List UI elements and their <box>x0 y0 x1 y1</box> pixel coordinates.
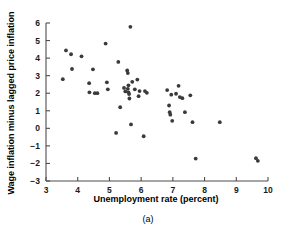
y-tick-label: 0 <box>35 123 40 133</box>
data-point <box>122 86 126 90</box>
data-point <box>183 110 187 114</box>
data-point <box>126 71 130 75</box>
data-point <box>133 87 137 91</box>
data-point <box>137 94 141 98</box>
data-point <box>180 96 184 100</box>
axes <box>46 23 268 181</box>
data-point <box>70 67 74 71</box>
data-points <box>61 25 260 163</box>
axis-tick-labels: −3−2−10123456345678910 <box>30 18 273 195</box>
x-axis-label: Unemployment rate (percent) <box>93 194 218 204</box>
x-tick-label: 4 <box>75 185 80 195</box>
data-point <box>177 84 181 88</box>
y-axis-label: Wage inflation minus lagged price inflat… <box>6 11 16 194</box>
y-tick-label: −3 <box>30 176 40 186</box>
data-point <box>118 105 122 109</box>
data-point <box>174 92 178 96</box>
data-point <box>135 78 139 82</box>
y-tick-label: 3 <box>35 71 40 81</box>
y-tick-label: 5 <box>35 36 40 46</box>
data-point <box>191 120 195 124</box>
data-point <box>95 91 99 95</box>
data-point <box>106 87 110 91</box>
data-point <box>142 134 146 138</box>
x-tick-label: 10 <box>263 185 273 195</box>
data-point <box>169 93 173 97</box>
data-point <box>126 87 130 91</box>
scatter-plot: −3−2−10123456345678910 Unemployment rate… <box>0 0 292 227</box>
data-point <box>128 97 132 101</box>
data-point <box>61 77 65 81</box>
y-tick-label: −2 <box>30 158 40 168</box>
x-tick-label: 3 <box>44 185 49 195</box>
data-point <box>69 52 73 56</box>
data-point <box>165 88 169 92</box>
axis-ticks <box>46 23 268 181</box>
data-point <box>64 48 68 52</box>
data-point <box>88 90 92 94</box>
y-tick-label: 6 <box>35 18 40 28</box>
data-point <box>116 60 120 64</box>
panel-label: (a) <box>143 214 154 224</box>
data-point <box>167 104 171 108</box>
data-point <box>194 157 198 161</box>
data-point <box>127 92 131 96</box>
data-point <box>114 131 118 135</box>
data-point <box>188 93 192 97</box>
data-point <box>168 113 172 117</box>
data-point <box>87 81 91 85</box>
data-point <box>80 54 84 58</box>
data-point <box>145 91 149 95</box>
y-tick-label: −1 <box>30 141 40 151</box>
data-point <box>105 80 109 84</box>
data-point <box>130 80 134 84</box>
y-tick-label: 1 <box>35 106 40 116</box>
data-point <box>128 25 132 29</box>
data-point <box>218 120 222 124</box>
data-point <box>127 83 131 87</box>
y-tick-label: 4 <box>35 53 40 63</box>
data-point <box>91 67 95 71</box>
data-point <box>170 119 174 123</box>
data-point <box>104 42 108 46</box>
data-point <box>256 159 260 163</box>
data-point <box>138 89 142 93</box>
figure-panel-a: −3−2−10123456345678910 Unemployment rate… <box>0 0 292 227</box>
x-tick-label: 9 <box>234 185 239 195</box>
y-tick-label: 2 <box>35 88 40 98</box>
data-point <box>129 123 133 127</box>
